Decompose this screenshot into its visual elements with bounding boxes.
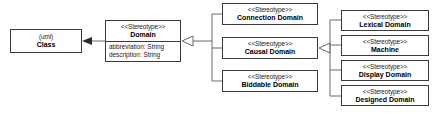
stereotype-label: <<Stereotype>>	[223, 40, 317, 48]
class-name-label: Display Domain	[342, 71, 428, 80]
class-header: <<Stereotype>> Domain	[106, 21, 180, 41]
stereotype-label: <<Stereotype>>	[223, 73, 317, 81]
class-box-designed-domain[interactable]: <<Stereotype>> Designed Domain	[341, 85, 429, 106]
class-box-biddable-domain[interactable]: <<Stereotype>> Biddable Domain	[222, 70, 318, 92]
class-name-label: Class	[11, 41, 81, 50]
class-header: <<Stereotype>> Causal Domain	[223, 38, 317, 58]
uml-diagram-canvas: (uml) Class <<Stereotype>> Domain abbrev…	[0, 0, 436, 114]
stereotype-label: <<Stereotype>>	[342, 63, 428, 71]
connector-causal-generalization	[319, 20, 341, 96]
connector-domain-generalization	[182, 14, 222, 81]
hollow-triangle-icon	[319, 43, 330, 53]
class-header: <<Stereotype>> Connection Domain	[223, 4, 317, 24]
class-header: <<Stereotype>> Display Domain	[342, 61, 428, 81]
stereotype-label: <<Stereotype>>	[106, 23, 180, 31]
class-box-connection-domain[interactable]: <<Stereotype>> Connection Domain	[222, 3, 318, 25]
stereotype-label: <<Stereotype>>	[342, 38, 428, 46]
solid-arrowhead-icon	[82, 37, 92, 45]
class-name-label: Biddable Domain	[223, 81, 317, 90]
class-header: (uml) Class	[11, 30, 81, 51]
class-box-domain[interactable]: <<Stereotype>> Domain abbreviation: Stri…	[105, 20, 181, 62]
class-box-machine[interactable]: <<Stereotype>> Machine	[341, 35, 429, 56]
class-header: <<Stereotype>> Machine	[342, 36, 428, 56]
connector-domain-to-class	[82, 37, 105, 45]
class-box-uml-class[interactable]: (uml) Class	[10, 29, 82, 53]
class-name-label: Designed Domain	[342, 96, 428, 105]
class-box-causal-domain[interactable]: <<Stereotype>> Causal Domain	[222, 37, 318, 59]
stereotype-label: <<Stereotype>>	[342, 13, 428, 21]
class-header: <<Stereotype>> Designed Domain	[342, 86, 428, 106]
class-name-label: Connection Domain	[223, 14, 317, 23]
class-name-label: Domain	[106, 31, 180, 40]
stereotype-label: <<Stereotype>>	[342, 88, 428, 96]
attribute-description: description: String	[109, 51, 177, 60]
attribute-abbreviation: abbreviation: String	[109, 43, 177, 52]
class-box-display-domain[interactable]: <<Stereotype>> Display Domain	[341, 60, 429, 81]
class-box-lexical-domain[interactable]: <<Stereotype>> Lexical Domain	[341, 10, 429, 31]
class-name-label: Causal Domain	[223, 48, 317, 57]
attributes-compartment: abbreviation: String description: String	[106, 41, 180, 61]
hollow-triangle-icon	[182, 36, 193, 46]
class-name-label: Machine	[342, 46, 428, 55]
class-header: <<Stereotype>> Biddable Domain	[223, 71, 317, 91]
class-name-label: Lexical Domain	[342, 21, 428, 30]
stereotype-label: <<Stereotype>>	[223, 6, 317, 14]
stereotype-label: (uml)	[11, 33, 81, 41]
class-header: <<Stereotype>> Lexical Domain	[342, 11, 428, 31]
